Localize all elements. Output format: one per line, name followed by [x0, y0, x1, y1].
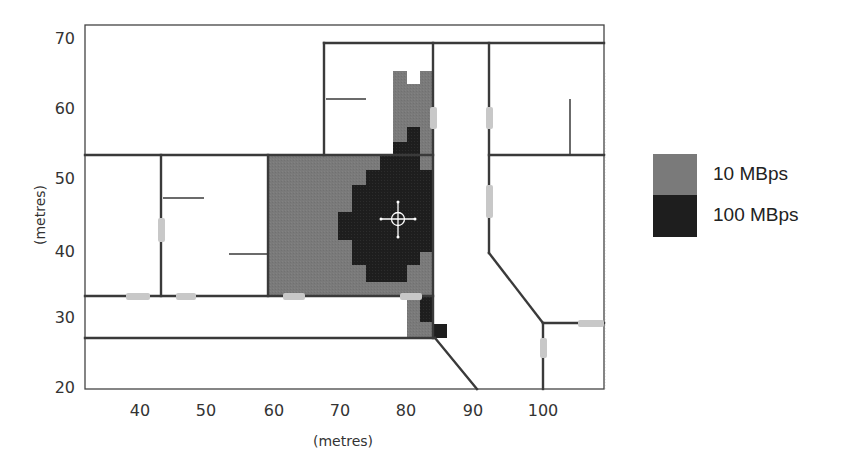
y-tick-50: 50: [45, 171, 75, 187]
y-tick-40: 40: [45, 244, 75, 260]
x-axis-label: (metres): [313, 433, 373, 449]
legend-label-10mbps: 10 MBps: [713, 163, 788, 185]
floor-plan-plot: [0, 0, 847, 469]
y-tick-70: 70: [45, 31, 75, 47]
legend-label-100mbps: 100 MBps: [713, 204, 799, 226]
legend-swatch-10mbps: [653, 154, 697, 195]
coverage-map-figure: 70 60 50 40 30 20 40 50 60 70 80 90 100 …: [0, 0, 847, 469]
legend-swatch-100mbps: [653, 195, 697, 237]
x-tick-60: 60: [254, 403, 294, 419]
y-tick-20: 20: [45, 380, 75, 396]
x-tick-80: 80: [386, 403, 426, 419]
x-tick-40: 40: [120, 403, 160, 419]
y-tick-30: 30: [45, 310, 75, 326]
x-tick-100: 100: [523, 403, 563, 419]
coverage-100mbps-corridor-cell: [433, 324, 447, 338]
y-tick-60: 60: [45, 101, 75, 117]
x-tick-50: 50: [186, 403, 226, 419]
x-tick-90: 90: [453, 403, 493, 419]
y-axis-label: (metres): [32, 185, 48, 245]
x-tick-70: 70: [320, 403, 360, 419]
